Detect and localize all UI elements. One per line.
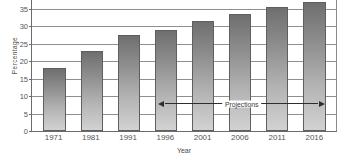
arrow-right-icon (319, 101, 325, 107)
arrow-left-icon (158, 101, 164, 107)
bar-1991[interactable] (118, 35, 140, 131)
bar-series (32, 0, 337, 131)
projections-label: Projections (222, 101, 262, 108)
y-axis-tick-label: 25 (20, 39, 28, 48)
bar-slot (185, 0, 222, 131)
bar-slot (147, 0, 184, 131)
x-axis-tick-labels: 19711981199119962001200620112016 (31, 133, 337, 147)
x-axis-tick-label: 2006 (221, 133, 258, 147)
bar-2011[interactable] (266, 7, 288, 131)
bar-1981[interactable] (81, 51, 103, 132)
y-axis-tick-label: 35 (20, 4, 28, 13)
x-axis-tick-label: 1981 (72, 133, 109, 147)
x-axis-title: Year (31, 147, 337, 154)
bar-2016[interactable] (303, 2, 325, 132)
bar-2001[interactable] (192, 21, 214, 131)
x-axis-tick-label: 1991 (110, 133, 147, 147)
bar-slot (73, 0, 110, 131)
y-axis-tick-mark (29, 131, 32, 132)
y-axis-tick-label: 15 (20, 74, 28, 83)
x-axis-tick-label: 1971 (35, 133, 72, 147)
x-axis-tick-label: 1996 (147, 133, 184, 147)
x-axis-tick-label: 2016 (296, 133, 333, 147)
y-axis-tick-label: 0 (24, 127, 28, 136)
bar-slot (110, 0, 147, 131)
y-axis-tick-label: 20 (20, 57, 28, 66)
x-axis-tick-label: 2001 (184, 133, 221, 147)
y-axis-title: Percentage (11, 16, 18, 96)
bar-2006[interactable] (229, 14, 251, 131)
bar-chart: Percentage 0510152025303540 Projections … (0, 0, 350, 161)
y-axis-tick-label: 10 (20, 92, 28, 101)
y-axis-tick-label: 5 (24, 109, 28, 118)
bar-1971[interactable] (43, 68, 65, 131)
bar-slot (36, 0, 73, 131)
projections-arrow: Projections (165, 103, 318, 104)
bar-slot (296, 0, 333, 131)
bar-slot (222, 0, 259, 131)
y-axis-tick-label: 30 (20, 22, 28, 31)
bar-slot (259, 0, 296, 131)
bar-1996[interactable] (155, 30, 177, 132)
x-axis-tick-label: 2011 (259, 133, 296, 147)
plot-area: 0510152025303540 Projections (31, 0, 337, 132)
